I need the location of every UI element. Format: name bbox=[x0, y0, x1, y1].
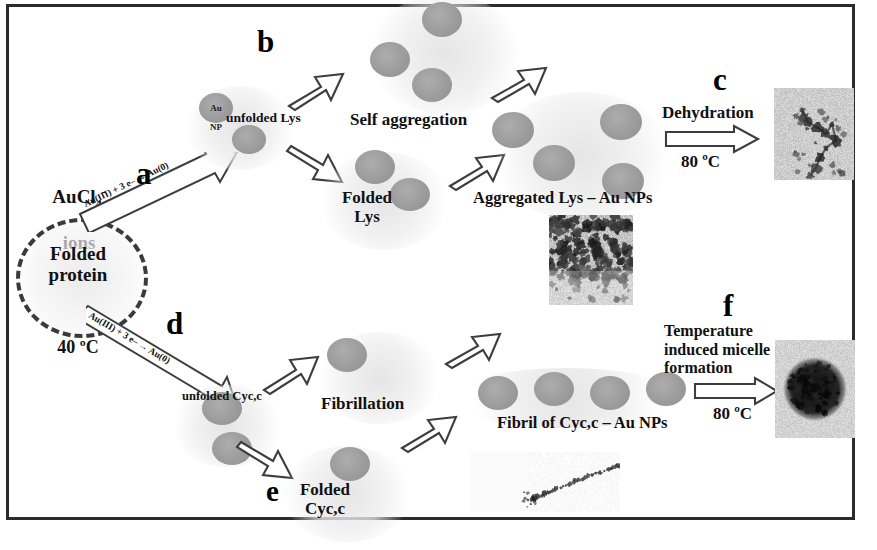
gold-nanoparticle bbox=[533, 145, 575, 181]
scheme-figure: AuCl4- ions Folded protein 40 ºC Au(III)… bbox=[0, 0, 877, 550]
dehydrated-tem-image bbox=[774, 88, 854, 180]
au-np-label-line1: Au bbox=[210, 103, 222, 113]
unfolded-cycc-label: unfolded Cyc,c bbox=[182, 389, 262, 403]
gold-nanoparticle bbox=[600, 104, 642, 140]
aggregated-lys-label: Aggregated Lys – Au NPs bbox=[473, 189, 652, 207]
dehydration-temperature-label: 80 ºC bbox=[681, 152, 720, 171]
fibril-tem-image bbox=[470, 452, 620, 512]
gold-nanoparticle bbox=[422, 2, 462, 37]
fibrillation-label: Fibrillation bbox=[321, 394, 404, 413]
folded-cycc-label: Folded Cyc,c bbox=[282, 480, 368, 518]
folded-protein-label: Folded protein bbox=[21, 243, 135, 286]
panel-letter-e: e bbox=[266, 475, 279, 508]
panel-letter-f: f bbox=[723, 288, 733, 324]
micelle-tem-image bbox=[775, 340, 855, 438]
panel-letter-b: b bbox=[257, 24, 274, 60]
self-aggregation-label: Self aggregation bbox=[350, 110, 467, 129]
panel-letter-c: c bbox=[713, 62, 727, 98]
gold-nanoparticle bbox=[492, 112, 534, 148]
panel-letter-d: d bbox=[166, 306, 183, 342]
dehydration-label: Dehydration bbox=[662, 103, 754, 122]
gold-nanoparticle bbox=[330, 447, 370, 481]
arrow-fibrillation-to-fibril bbox=[444, 330, 502, 376]
gold-nanoparticle bbox=[534, 372, 574, 406]
gold-nanoparticle bbox=[355, 150, 395, 184]
arrow-folded-cycc-to-fibril bbox=[400, 412, 458, 458]
arrow-to-fibrillation bbox=[262, 348, 320, 398]
gold-nanoparticle bbox=[232, 125, 266, 154]
au-np-label-line2: NP bbox=[210, 122, 222, 132]
aggregated-lys-tem-image bbox=[549, 215, 633, 305]
folded-lys-label: Folded Lys bbox=[327, 188, 407, 226]
panel-letter-a: a bbox=[136, 156, 152, 192]
gold-nanoparticle bbox=[590, 376, 630, 410]
gold-nanoparticle bbox=[412, 68, 452, 102]
gold-nanoparticle bbox=[370, 42, 410, 77]
gold-nanoparticle bbox=[327, 338, 367, 372]
fibril-label: Fibril of Cyc,c – Au NPs bbox=[497, 414, 668, 432]
gold-nanoparticle bbox=[478, 376, 518, 410]
micelle-temperature-label: 80 ºC bbox=[713, 404, 752, 423]
arrow-to-self-aggregation bbox=[287, 68, 345, 116]
